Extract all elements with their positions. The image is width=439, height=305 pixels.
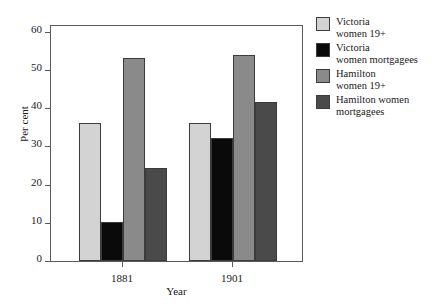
y-tick-mark bbox=[45, 32, 50, 33]
legend: Victoriawomen 19+Victoriawomen mortgagee… bbox=[316, 16, 436, 120]
legend-label-1: Victoriawomen mortgagees bbox=[336, 42, 418, 66]
legend-label-0: Victoriawomen 19+ bbox=[336, 16, 386, 40]
y-tick-mark bbox=[45, 70, 50, 71]
legend-item-2: Hamiltonwomen 19+ bbox=[316, 68, 436, 92]
bar-1881-series-3 bbox=[145, 168, 167, 261]
legend-label-line2: women 19+ bbox=[336, 80, 386, 92]
x-tick-label: 1901 bbox=[202, 272, 262, 284]
legend-label-line1: Victoria bbox=[336, 42, 418, 54]
x-tick-mark bbox=[232, 262, 233, 267]
bar-chart-figure: 0102030405060 Per cent 18811901 Year Vic… bbox=[0, 0, 439, 305]
plot-area bbox=[51, 26, 302, 261]
y-axis-label: Per cent bbox=[18, 94, 30, 154]
legend-label-3: Hamilton womenmortgagees bbox=[336, 94, 409, 118]
x-axis-label: Year bbox=[50, 285, 303, 297]
y-tick-mark bbox=[45, 223, 50, 224]
legend-swatch-1 bbox=[316, 43, 330, 57]
bar-1901-series-1 bbox=[211, 138, 233, 261]
bar-1901-series-2 bbox=[233, 55, 255, 261]
x-tick-label: 1881 bbox=[92, 272, 152, 284]
legend-label-line2: women 19+ bbox=[336, 28, 386, 40]
legend-swatch-2 bbox=[316, 69, 330, 83]
y-tick-mark bbox=[45, 185, 50, 186]
y-tick-label: 40 bbox=[31, 100, 42, 111]
y-tick-label: 10 bbox=[31, 215, 42, 226]
y-tick-label: 50 bbox=[31, 62, 42, 73]
legend-item-1: Victoriawomen mortgagees bbox=[316, 42, 436, 66]
bar-1901-series-3 bbox=[255, 102, 277, 261]
bar-1881-series-0 bbox=[79, 123, 101, 261]
bar-1881-series-2 bbox=[123, 58, 145, 261]
legend-label-2: Hamiltonwomen 19+ bbox=[336, 68, 386, 92]
y-tick-label: 20 bbox=[31, 177, 42, 188]
legend-label-line1: Victoria bbox=[336, 16, 386, 28]
legend-swatch-0 bbox=[316, 17, 330, 31]
y-tick-mark bbox=[45, 146, 50, 147]
y-tick-label: 30 bbox=[31, 138, 42, 149]
legend-label-line1: Hamilton women bbox=[336, 94, 409, 106]
bar-1881-series-1 bbox=[101, 222, 123, 261]
legend-swatch-3 bbox=[316, 95, 330, 109]
legend-label-line2: mortgagees bbox=[336, 106, 409, 118]
y-tick-label: 0 bbox=[37, 253, 43, 264]
legend-item-0: Victoriawomen 19+ bbox=[316, 16, 436, 40]
y-tick-mark bbox=[45, 108, 50, 109]
legend-item-3: Hamilton womenmortgagees bbox=[316, 94, 436, 118]
y-tick-label: 60 bbox=[31, 24, 42, 35]
y-tick-mark bbox=[45, 261, 50, 262]
legend-label-line2: women mortgagees bbox=[336, 54, 418, 66]
legend-label-line1: Hamilton bbox=[336, 68, 386, 80]
plot-frame bbox=[50, 25, 303, 262]
x-tick-mark bbox=[122, 262, 123, 267]
bar-1901-series-0 bbox=[189, 123, 211, 261]
